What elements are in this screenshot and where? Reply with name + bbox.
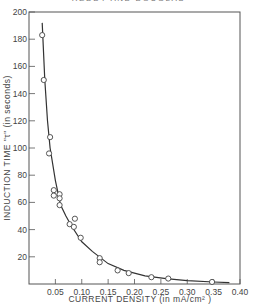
data-point (149, 275, 154, 280)
data-point (46, 151, 51, 156)
data-point (126, 271, 131, 276)
data-point (72, 216, 77, 221)
data-point (51, 188, 56, 193)
data-point (51, 193, 56, 198)
data-point (209, 279, 214, 284)
data-point (41, 77, 46, 82)
svg-text:200: 200 (13, 7, 27, 17)
svg-text:40: 40 (18, 225, 28, 235)
svg-text:160: 160 (13, 61, 27, 71)
data-point (78, 235, 83, 240)
svg-text:20: 20 (18, 252, 28, 262)
fitted-curve (42, 23, 229, 283)
plot-frame (29, 12, 240, 284)
chart: 20406080100120140160180200 0.050.100.150… (0, 0, 257, 308)
data-point (97, 260, 102, 265)
svg-text:140: 140 (13, 89, 27, 99)
data-point (115, 268, 120, 273)
data-point (166, 276, 171, 281)
data-point (57, 196, 62, 201)
data-points (40, 33, 215, 285)
svg-text:80: 80 (18, 170, 28, 180)
data-point (40, 33, 45, 38)
y-axis-label: INDUCTION TIME "τ" (in seconds) (2, 75, 12, 221)
svg-text:0.05: 0.05 (47, 287, 64, 297)
data-point (57, 203, 62, 208)
x-axis-label: CURRENT DENSITY (in mA/cm² ) (68, 294, 211, 304)
svg-text:180: 180 (13, 34, 27, 44)
svg-text:100: 100 (13, 143, 27, 153)
y-axis: 20406080100120140160180200 (13, 7, 35, 262)
svg-text:120: 120 (13, 116, 27, 126)
svg-text:60: 60 (18, 197, 28, 207)
data-point (71, 224, 76, 229)
data-point (48, 135, 53, 140)
svg-text:0.40: 0.40 (232, 287, 249, 297)
